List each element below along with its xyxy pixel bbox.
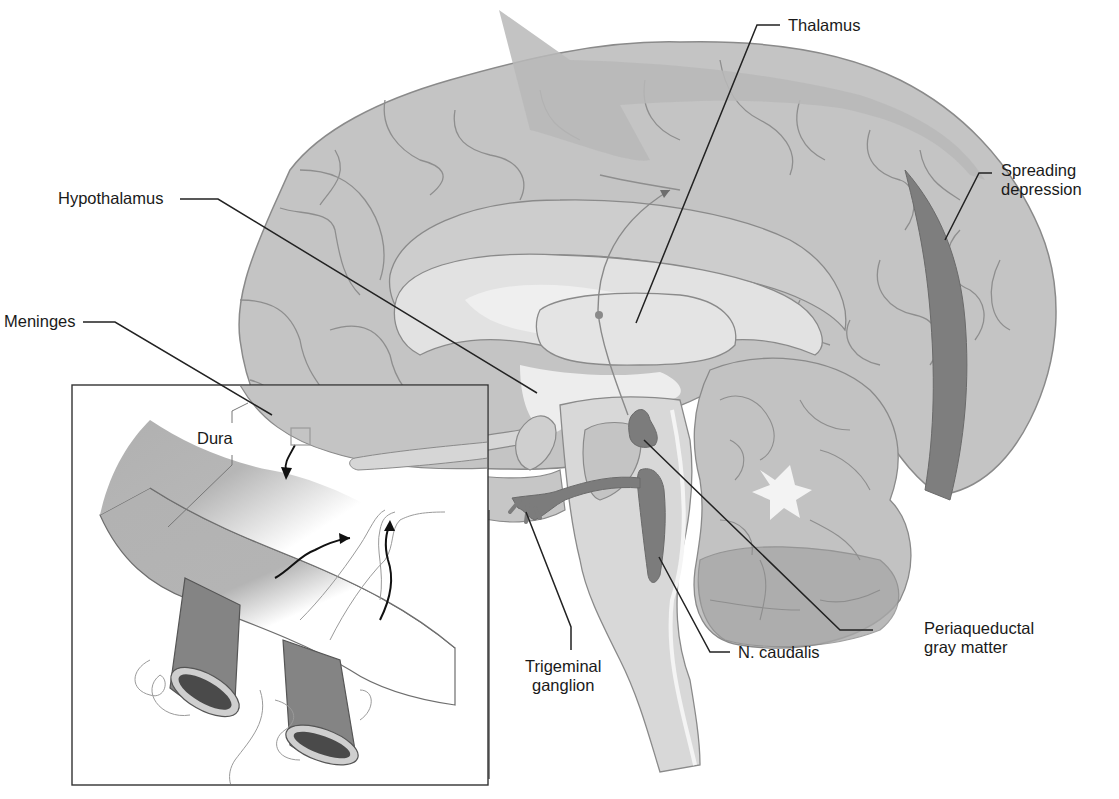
label-n-caudalis: N. caudalis	[738, 643, 820, 662]
brain-diagram-figure: Thalamus Spreading depression Hypothalam…	[0, 0, 1119, 799]
label-dura: Dura	[197, 429, 233, 448]
trigeminal-ganglion-leader	[526, 512, 571, 650]
label-pag-line2: gray matter	[924, 638, 1034, 657]
label-trigeminal-line2: ganglion	[525, 676, 601, 695]
label-spreading-depression: Spreading depression	[1001, 161, 1082, 199]
label-trigeminal-ganglion: Trigeminal ganglion	[525, 657, 601, 695]
label-meninges: Meninges	[4, 312, 76, 331]
cerebellum-outer-lobe	[698, 547, 898, 647]
cerebellum	[694, 358, 911, 648]
dura-inset	[72, 385, 488, 799]
label-spreading-depression-line2: depression	[1001, 180, 1082, 199]
label-thalamus: Thalamus	[788, 16, 860, 35]
label-periaqueductal-gray-matter: Periaqueductal gray matter	[924, 619, 1034, 657]
label-hypothalamus: Hypothalamus	[58, 189, 163, 208]
thalamic-relay-dot	[595, 311, 603, 319]
thalamus	[536, 293, 735, 365]
label-trigeminal-line1: Trigeminal	[525, 657, 601, 676]
label-pag-line1: Periaqueductal	[924, 619, 1034, 638]
label-spreading-depression-line1: Spreading	[1001, 161, 1082, 180]
